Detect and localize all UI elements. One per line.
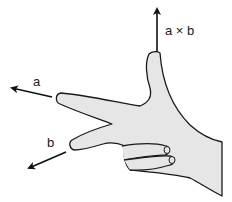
arrow-a	[12, 88, 52, 97]
label-a: a	[33, 74, 41, 89]
right-hand-rule-diagram: a × b a b	[0, 0, 232, 202]
label-cross-product: a × b	[165, 23, 194, 38]
label-b: b	[47, 135, 54, 150]
hand	[56, 52, 222, 196]
hand-body	[56, 52, 222, 196]
fingernail-2	[169, 157, 175, 164]
arrow-b	[29, 152, 66, 168]
fingernail-1	[164, 147, 170, 154]
